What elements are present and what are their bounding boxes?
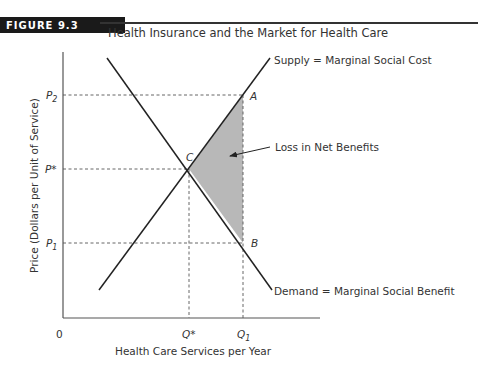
point-b-label: B xyxy=(251,237,258,249)
point-a-label: A xyxy=(249,90,257,102)
guide-lines xyxy=(63,95,243,318)
y-axis-label: Price (Dollars per Unit of Service) xyxy=(28,98,40,273)
p2-tick: P2 xyxy=(46,89,57,104)
supply-curve xyxy=(99,58,270,290)
loss-label: Loss in Net Benefits xyxy=(275,141,379,153)
q1-tick: Q1 xyxy=(237,328,250,343)
pstar-tick: P* xyxy=(45,163,57,175)
x-axis-label: Health Care Services per Year xyxy=(115,345,272,357)
qstar-tick: Q* xyxy=(182,328,196,340)
supply-label: Supply = Marginal Social Cost xyxy=(274,54,432,66)
chart: Supply = Marginal Social Cost Demand = M… xyxy=(0,0,478,371)
p1-tick: P1 xyxy=(46,237,57,252)
demand-curve xyxy=(107,58,272,290)
loss-area xyxy=(189,95,243,243)
origin-label: 0 xyxy=(56,328,63,340)
point-c-label: C xyxy=(186,151,194,163)
demand-label: Demand = Marginal Social Benefit xyxy=(274,285,455,297)
